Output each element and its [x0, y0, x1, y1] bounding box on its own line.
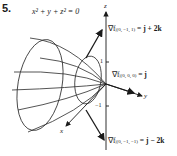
- gradient-value: = j: [136, 70, 147, 79]
- gradient-label-bottom: ∇f|(0, −1, −1) = j − 2k: [108, 137, 164, 145]
- nabla-symbol: ∇f: [108, 24, 116, 33]
- axes: [66, 12, 142, 150]
- y-axis-label: y: [144, 93, 147, 100]
- gradient-value: = j − 2k: [138, 136, 164, 145]
- gradient-value: = j + 2k: [135, 24, 161, 33]
- surface-rim: [10, 36, 69, 134]
- nabla-symbol: ∇f: [108, 136, 116, 145]
- z-tick-negative: −1: [95, 102, 101, 108]
- x-axis-label: x: [60, 128, 63, 135]
- gradient-arrow-top: [86, 30, 102, 58]
- gradient-point: |(0, −1, −1): [116, 139, 138, 144]
- gradient-label-origin: ∇f|(0, 0, 0) = j: [112, 71, 147, 79]
- gradient-arrow-bottom: [86, 110, 104, 140]
- gradient-point: |(0, −1, 1): [116, 27, 136, 32]
- z-axis-label: z: [104, 3, 107, 10]
- gradient-cone-figure: 5. x² + y + z² = 0 z y x 1 −1 ∇f|(0, −1,…: [0, 0, 177, 156]
- surface-equation: x² + y + z² = 0: [32, 8, 79, 16]
- problem-number: 5.: [2, 3, 11, 14]
- nabla-symbol: ∇f: [112, 70, 120, 79]
- gradient-point: |(0, 0, 0): [120, 73, 137, 78]
- z-tick-positive: 1: [100, 58, 103, 64]
- gradient-label-top: ∇f|(0, −1, 1) = j + 2k: [108, 25, 162, 33]
- gradient-arrow-origin: [106, 84, 134, 93]
